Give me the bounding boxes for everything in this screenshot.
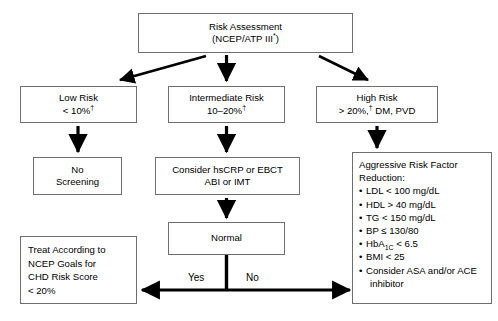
node-no-screening[interactable]: No Screening — [33, 157, 122, 195]
bullet-hba1c-suffix: < 6.5 — [394, 238, 418, 249]
edge-root-to-low-risk — [120, 56, 206, 80]
node-risk-assessment-line2-suffix: ) — [276, 33, 279, 44]
bullet-bp: •BP ≤ 130/80 — [359, 224, 419, 237]
node-no-screening-line1: No — [71, 164, 83, 176]
bullet-tg-text: TG < 150 mg/dL — [366, 212, 436, 223]
node-high-risk-conditions: DM, PVD — [373, 105, 416, 116]
node-risk-assessment-line2: (NCEP/ATP III*) — [212, 33, 279, 45]
bullet-bmi: •BMI < 25 — [359, 250, 405, 263]
bullet-asa-ace-continuation: inhibitor — [359, 277, 404, 290]
bullet-dot-icon: • — [359, 264, 366, 277]
node-treat-line2: NCEP Goals for — [28, 257, 96, 271]
node-treat-line3: CHD Risk Score — [28, 270, 98, 284]
node-consider-tests[interactable]: Consider hsCRP or EBCT ABI or IMT — [155, 157, 300, 195]
bullet-dot-icon: • — [359, 184, 366, 197]
node-risk-assessment-line1: Risk Assessment — [209, 21, 282, 33]
node-consider-tests-line1: Consider hsCRP or EBCT — [172, 164, 283, 176]
node-treat-according[interactable]: Treat According to NCEP Goals for CHD Ri… — [20, 236, 137, 304]
node-no-screening-line2: Screening — [56, 176, 99, 188]
bullet-bmi-text: BMI < 25 — [366, 251, 405, 262]
bullet-asa-ace: •Consider ASA and/or ACE — [359, 264, 477, 277]
node-high-risk-line2: > 20%,† DM, PVD — [339, 105, 416, 117]
bullet-dot-icon: • — [359, 198, 366, 211]
bullet-dot-icon: • — [359, 224, 366, 237]
bullet-ldl: •LDL < 100 mg/dL — [359, 184, 440, 197]
node-intermediate-risk-line2: 10–20%† — [207, 105, 246, 117]
node-intermediate-risk-dagger: † — [242, 103, 246, 110]
node-high-risk-line1: High Risk — [356, 92, 397, 104]
bullet-hdl: •HDL > 40 mg/dL — [359, 198, 436, 211]
node-risk-assessment[interactable]: Risk Assessment (NCEP/ATP III*) — [138, 13, 353, 53]
node-normal[interactable]: Normal — [168, 222, 285, 255]
node-treat-line1: Treat According to — [28, 243, 106, 257]
node-risk-assessment-line2-prefix: (NCEP/ATP III — [212, 33, 273, 44]
node-intermediate-risk-line1: Intermediate Risk — [189, 92, 264, 104]
bullet-hba1c: •HbA1C < 6.5 — [359, 237, 418, 250]
node-low-risk-dagger: † — [90, 103, 94, 110]
node-aggressive-heading1: Aggressive Risk Factor — [359, 158, 458, 171]
bullet-dot-icon: • — [359, 211, 366, 224]
edge-root-to-high-risk — [319, 56, 368, 80]
node-aggressive-heading2: Reduction: — [359, 171, 405, 184]
node-aggressive-reduction[interactable]: Aggressive Risk Factor Reduction: •LDL <… — [352, 152, 492, 304]
bullet-hba1c-prefix: HbA — [366, 238, 385, 249]
bullet-asa-ace-text: Consider ASA and/or ACE — [366, 265, 477, 276]
flowchart-canvas: Risk Assessment (NCEP/ATP III*) Low Risk… — [0, 0, 498, 321]
node-low-risk[interactable]: Low Risk < 10%† — [20, 86, 137, 123]
edge-label-no: No — [246, 272, 259, 283]
node-consider-tests-line2: ABI or IMT — [205, 176, 251, 188]
node-intermediate-risk-value: 10–20% — [207, 105, 242, 116]
node-normal-line1: Normal — [211, 232, 242, 244]
node-high-risk[interactable]: High Risk > 20%,† DM, PVD — [316, 86, 438, 123]
bullet-hdl-text: HDL > 40 mg/dL — [366, 199, 436, 210]
edge-label-yes: Yes — [188, 272, 204, 283]
node-intermediate-risk[interactable]: Intermediate Risk 10–20%† — [168, 86, 285, 123]
bullet-bp-text: BP ≤ 130/80 — [366, 225, 419, 236]
node-high-risk-value: > 20%, — [339, 105, 369, 116]
node-low-risk-value: < 10% — [63, 105, 90, 116]
node-low-risk-line2: < 10%† — [63, 105, 94, 117]
bullet-ldl-text: LDL < 100 mg/dL — [366, 185, 440, 196]
bullet-dot-icon: • — [359, 237, 366, 250]
node-treat-line4: < 20% — [28, 284, 55, 298]
bullet-dot-icon: • — [359, 250, 366, 263]
bullet-tg: •TG < 150 mg/dL — [359, 211, 436, 224]
